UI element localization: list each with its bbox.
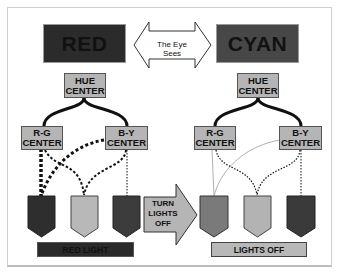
left-rg-line2: CENTER	[22, 138, 62, 148]
right-rg-to-m-cone	[216, 150, 257, 195]
left-hue-line2: CENTER	[65, 86, 105, 96]
right-hue-line1: HUE	[238, 76, 278, 86]
left-m-cone-icon	[71, 196, 98, 237]
red-light-bar: RED LIGHT	[37, 242, 134, 257]
turn-lights-off-label: TURN LIGHTS OFF	[142, 199, 184, 229]
right-by-to-m-cone	[257, 150, 300, 195]
left-hue-center-box: HUE CENTER	[64, 73, 106, 98]
left-by-to-m-cone	[84, 150, 126, 195]
left-s-cone-icon	[113, 196, 140, 237]
turn-line3: OFF	[142, 219, 184, 229]
left-rg-to-m-cone	[45, 150, 84, 195]
right-hue-rg-connector	[215, 98, 258, 126]
red-light-label: RED LIGHT	[63, 245, 109, 255]
lights-off-label: LIGHTS OFF	[234, 245, 285, 255]
left-by-line2: CENTER	[106, 138, 147, 148]
turn-line1: TURN	[142, 199, 184, 209]
eye-sees-label: The Eye Sees	[147, 40, 197, 58]
left-hue-rg-connector	[44, 98, 84, 126]
left-hue-line1: HUE	[65, 76, 105, 86]
left-rg-center-box: R-G CENTER	[21, 126, 63, 150]
right-by-center-box: B-Y CENTER	[279, 126, 322, 150]
right-s-cone-icon	[287, 196, 315, 237]
right-hue-by-connector	[258, 98, 301, 126]
right-hue-center-box: HUE CENTER	[237, 73, 279, 98]
left-hue-by-connector	[84, 98, 127, 126]
right-by-line2: CENTER	[280, 138, 321, 148]
right-l-cone-icon	[200, 196, 228, 237]
right-rg-line2: CENTER	[195, 138, 235, 148]
turn-line2: LIGHTS	[142, 209, 184, 219]
left-l-cone-icon	[28, 196, 55, 237]
right-rg-center-box: R-G CENTER	[194, 126, 236, 150]
left-by-center-box: B-Y CENTER	[105, 126, 148, 150]
lights-off-bar: LIGHTS OFF	[211, 242, 307, 257]
right-rg-to-l-cone-faint	[212, 150, 214, 196]
right-hue-line2: CENTER	[238, 86, 278, 96]
right-m-cone-icon	[244, 196, 271, 237]
